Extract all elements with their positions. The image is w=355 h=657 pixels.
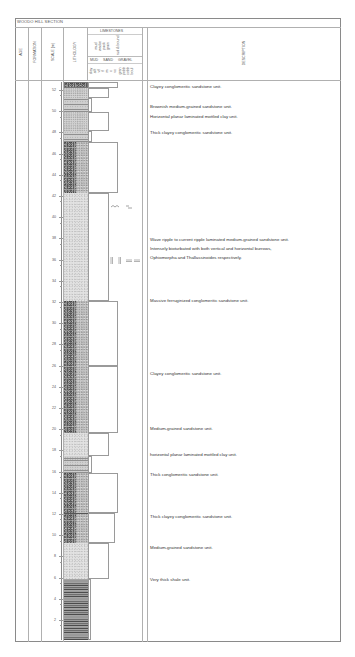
description-unit-4: Thick clayey conglomeritic sandstone uni… <box>150 130 232 137</box>
scale-tick-minor <box>60 117 62 118</box>
scale-tick-minor <box>60 498 62 499</box>
scale-tick-label: 16 <box>44 470 56 474</box>
header-gs-boul: boul <box>130 65 134 77</box>
bed-boundary <box>64 513 88 514</box>
description-unit-5c: Ophiomorpha and Thallassinoides respecti… <box>150 255 242 262</box>
ripple-symbol <box>110 203 136 210</box>
scale-tick-major <box>59 281 63 282</box>
scale-tick-major <box>59 620 63 621</box>
scale-tick-minor <box>60 625 62 626</box>
grain-box <box>88 142 118 193</box>
grain-box <box>88 366 118 433</box>
lith-sandstone <box>64 112 88 131</box>
description-unit-5b: Intensely bioturbated with both vertical… <box>150 246 272 253</box>
scale-tick-label: 24 <box>44 385 56 389</box>
header-mud: MUD <box>90 58 98 62</box>
scale-tick-minor <box>60 604 62 605</box>
scale-tick-minor <box>60 413 62 414</box>
scale-tick-label: 40 <box>44 215 56 219</box>
header-scale: SCALE (m) <box>51 35 55 69</box>
description-unit-7: Clayey conglomeritic sandstone unit. <box>150 371 222 378</box>
col-divider-formation <box>41 27 42 642</box>
description-unit-6: Massive ferruginized conglomeritic sands… <box>150 298 248 305</box>
scale-tick-minor <box>60 329 62 330</box>
scale-tick-minor <box>60 244 62 245</box>
scale-tick-minor <box>60 286 62 287</box>
scale-tick-label: 8 <box>44 554 56 558</box>
lith-conglomerate-matrix <box>76 301 88 433</box>
header-age: AGE <box>19 40 23 64</box>
header-ls-rud-bound: rud & bound <box>116 37 120 55</box>
col-divider-grain <box>142 27 143 642</box>
scale-tick-minor <box>60 350 62 351</box>
lith-clay <box>64 456 88 473</box>
lith-conglomerate-matrix <box>76 473 88 543</box>
scale-tick-major <box>59 556 63 557</box>
scale-tick-label: 52 <box>44 88 56 92</box>
scale-tick-label: 46 <box>44 152 56 156</box>
scale-tick-label: 28 <box>44 342 56 346</box>
description-unit-12: Medium-grained sandstone unit. <box>150 545 213 552</box>
scale-tick-major <box>59 366 63 367</box>
scale-tick-major <box>59 217 63 218</box>
scale-tick-major <box>59 111 63 112</box>
scale-tick-label: 50 <box>44 109 56 113</box>
scale-tick-label: 12 <box>44 512 56 516</box>
scale-tick-label: 34 <box>44 279 56 283</box>
header-sand: SAND <box>103 58 113 62</box>
header-gs-vc: vc <box>113 65 117 77</box>
header-description: DESCRIPTION <box>242 33 246 73</box>
scale-tick-major <box>59 344 63 345</box>
scale-tick-minor <box>60 392 62 393</box>
scale-tick-minor <box>60 562 62 563</box>
scale-tick-label: 22 <box>44 406 56 410</box>
scale-tick-minor <box>60 307 62 308</box>
scale-tick-label: 44 <box>44 173 56 177</box>
header-limestones: LIMESTONES <box>100 29 123 33</box>
scale-tick-major <box>59 260 63 261</box>
lith-clay <box>64 98 88 112</box>
scale-tick-minor <box>60 180 62 181</box>
scale-tick-label: 14 <box>44 491 56 495</box>
description-unit-3: Horizontal planar laminated mottled clay… <box>150 114 238 121</box>
scale-tick-label: 26 <box>44 364 56 368</box>
section-title: WOODO HILL SECTION <box>17 19 63 24</box>
scale-tick-major <box>59 387 63 388</box>
scale-tick-major <box>59 238 63 239</box>
header-gravel: GRAVEL <box>118 58 132 62</box>
scale-tick-major <box>59 175 63 176</box>
scale-tick-major <box>59 302 63 303</box>
scale-tick-minor <box>60 519 62 520</box>
grain-box <box>88 131 92 142</box>
scale-tick-label: 2 <box>44 618 56 622</box>
scale-tick-minor <box>60 371 62 372</box>
scale-tick-label: 38 <box>44 236 56 240</box>
grain-box <box>88 456 92 473</box>
scale-tick-major <box>59 514 63 515</box>
scale-tick-major <box>59 132 63 133</box>
description-unit-5a: Wave ripple to current ripple laminated … <box>150 237 289 244</box>
scale-tick-label: 18 <box>44 448 56 452</box>
scale-tick-label: 20 <box>44 427 56 431</box>
scale-tick-minor <box>60 541 62 542</box>
scale-tick-major <box>59 472 63 473</box>
description-unit-2: Brownish medium-grained sandstone unit. <box>150 104 232 111</box>
scale-tick-minor <box>60 223 62 224</box>
scale-tick-minor <box>60 138 62 139</box>
col-divider-age <box>28 27 29 642</box>
grain-box <box>88 579 91 640</box>
lith-conglomerate <box>64 142 76 193</box>
lith-shale <box>64 579 88 640</box>
scale-tick-label: 10 <box>44 533 56 537</box>
scale-tick-major <box>59 154 63 155</box>
col-divider-lithology <box>87 27 88 81</box>
limestones-divider <box>88 34 142 35</box>
col-divider-description <box>147 27 148 642</box>
scale-tick-label: 6 <box>44 576 56 580</box>
scale-tick-minor <box>60 201 62 202</box>
scale-tick-major <box>59 450 63 451</box>
scale-tick-minor <box>60 159 62 160</box>
grain-box <box>88 513 115 543</box>
lith-sandstone-fine <box>64 193 88 301</box>
scale-tick-label: 42 <box>44 194 56 198</box>
